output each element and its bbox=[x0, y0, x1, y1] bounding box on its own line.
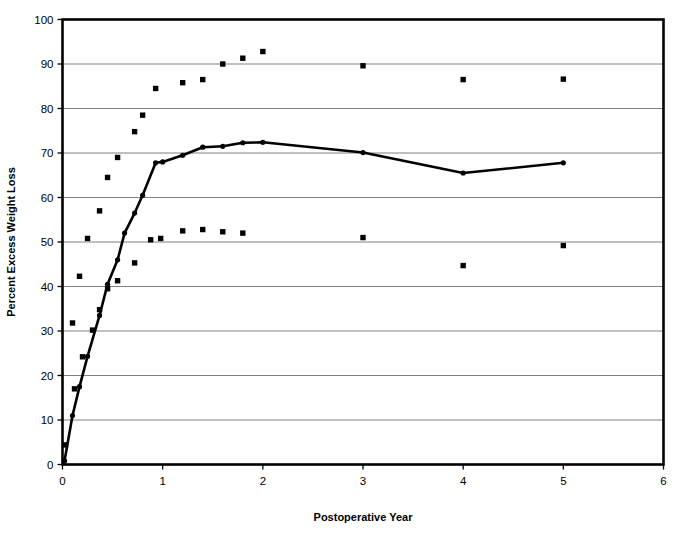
data-point bbox=[72, 386, 77, 391]
data-point bbox=[70, 320, 75, 325]
data-point bbox=[260, 140, 265, 145]
data-point bbox=[561, 160, 566, 165]
data-point bbox=[260, 49, 265, 54]
weight-loss-scatter-chart: 01020304050607080901000123456Postoperati… bbox=[0, 0, 676, 538]
data-point bbox=[132, 260, 137, 265]
data-point bbox=[62, 458, 67, 463]
x-tick-label-1: 1 bbox=[159, 475, 165, 487]
data-point bbox=[77, 274, 82, 279]
y-axis-title: Percent Excess Weight Loss bbox=[5, 167, 17, 317]
data-point bbox=[200, 77, 205, 82]
data-point bbox=[85, 236, 90, 241]
data-point bbox=[85, 354, 90, 359]
data-point bbox=[460, 77, 465, 82]
y-axis: 0102030405060708090100 bbox=[34, 14, 62, 471]
y-tick-label-80: 80 bbox=[41, 103, 54, 115]
data-point bbox=[77, 384, 82, 389]
data-point bbox=[160, 159, 165, 164]
data-point bbox=[63, 442, 68, 447]
data-point bbox=[360, 235, 365, 240]
data-point bbox=[153, 160, 158, 165]
y-tick-label-40: 40 bbox=[41, 281, 54, 293]
data-point bbox=[220, 61, 225, 66]
y-tick-label-30: 30 bbox=[41, 325, 54, 337]
x-tick-label-5: 5 bbox=[560, 475, 566, 487]
data-point bbox=[97, 307, 102, 312]
data-point bbox=[200, 227, 205, 232]
data-point bbox=[561, 243, 566, 248]
data-point bbox=[105, 175, 110, 180]
y-tick-label-60: 60 bbox=[41, 192, 54, 204]
y-tick-label-90: 90 bbox=[41, 58, 54, 70]
data-point bbox=[115, 257, 120, 262]
data-point bbox=[220, 144, 225, 149]
data-point bbox=[80, 354, 85, 359]
data-point bbox=[180, 80, 185, 85]
x-tick-label-0: 0 bbox=[59, 475, 65, 487]
data-point bbox=[240, 140, 245, 145]
x-axis: 0123456 bbox=[59, 465, 666, 487]
data-point bbox=[200, 145, 205, 150]
y-tick-label-20: 20 bbox=[41, 370, 54, 382]
data-point bbox=[140, 112, 145, 117]
y-tick-label-70: 70 bbox=[41, 147, 54, 159]
data-point bbox=[115, 278, 120, 283]
data-point bbox=[180, 153, 185, 158]
data-point bbox=[132, 129, 137, 134]
data-point bbox=[360, 150, 365, 155]
x-tick-label-4: 4 bbox=[460, 475, 467, 487]
x-tick-label-6: 6 bbox=[660, 475, 666, 487]
data-point bbox=[153, 86, 158, 91]
data-point bbox=[132, 210, 137, 215]
data-point bbox=[360, 63, 365, 68]
data-point bbox=[122, 231, 127, 236]
data-point bbox=[460, 263, 465, 268]
x-axis-title: Postoperative Year bbox=[314, 511, 414, 523]
data-point bbox=[105, 286, 110, 291]
chart-container: 01020304050607080901000123456Postoperati… bbox=[0, 0, 676, 538]
data-point bbox=[461, 170, 466, 175]
x-tick-label-3: 3 bbox=[360, 475, 366, 487]
data-point bbox=[220, 229, 225, 234]
data-point bbox=[115, 155, 120, 160]
data-point bbox=[97, 313, 102, 318]
y-tick-label-0: 0 bbox=[47, 459, 53, 471]
x-tick-label-2: 2 bbox=[260, 475, 266, 487]
data-point bbox=[70, 413, 75, 418]
data-point bbox=[240, 230, 245, 235]
data-point bbox=[180, 228, 185, 233]
y-tick-label-100: 100 bbox=[34, 14, 53, 26]
data-point bbox=[90, 327, 95, 332]
data-point bbox=[148, 237, 153, 242]
data-point bbox=[140, 193, 145, 198]
data-point bbox=[97, 208, 102, 213]
data-point bbox=[240, 56, 245, 61]
y-tick-label-50: 50 bbox=[41, 236, 54, 248]
y-tick-label-10: 10 bbox=[41, 414, 54, 426]
data-point bbox=[561, 76, 566, 81]
data-point bbox=[158, 236, 163, 241]
